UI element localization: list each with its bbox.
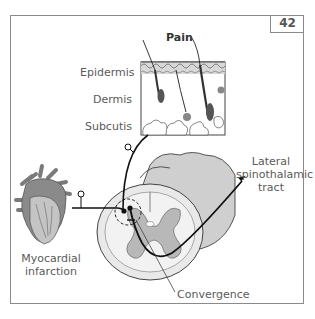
label-mi-line1: Myocardial [14, 252, 88, 265]
label-lateral-spinothalamic-tract: Lateral spinothalamic tract [236, 155, 306, 194]
label-pain: Pain [166, 31, 193, 44]
label-lateral-line1: Lateral [236, 155, 306, 168]
heart-illustration [16, 166, 70, 244]
label-subcutis: Subcutis [80, 120, 132, 133]
label-myocardial-infarction: Myocardial infarction [14, 252, 88, 278]
label-convergence: Convergence [177, 288, 250, 301]
spinal-cord [97, 153, 235, 281]
skin-cross-section [141, 38, 225, 135]
label-mi-line2: infarction [14, 265, 88, 278]
label-lateral-line2: spinothalamic [236, 168, 306, 181]
label-dermis: Dermis [80, 93, 132, 106]
label-lateral-line3: tract [236, 181, 306, 194]
label-epidermis: Epidermis [80, 66, 132, 79]
